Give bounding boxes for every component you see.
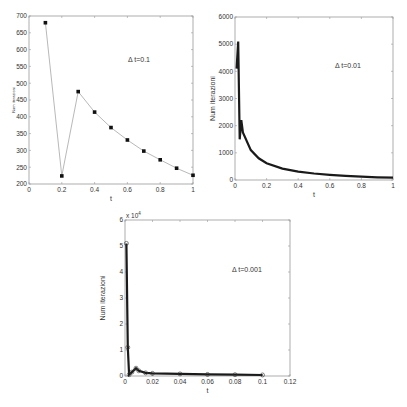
x-tick-label: 0.4 bbox=[90, 186, 99, 193]
y-tick-label: 3 bbox=[119, 294, 123, 301]
x-tick-label: 0.8 bbox=[156, 186, 165, 193]
x-tick-label: 0.04 bbox=[174, 378, 187, 385]
x-tick-label: 0.4 bbox=[294, 182, 303, 189]
x-tick-label: 0 bbox=[27, 186, 31, 193]
y-axis-label: Num iterazioni bbox=[209, 76, 216, 121]
data-point bbox=[76, 90, 80, 94]
delta-t-annotation: Δ t=0.1 bbox=[128, 56, 150, 63]
y-tick-label: 650 bbox=[16, 29, 27, 36]
x-tick-label: 0.06 bbox=[201, 378, 214, 385]
data-line bbox=[237, 42, 393, 178]
data-line bbox=[126, 243, 262, 375]
x-tick-label: 0.1 bbox=[258, 378, 267, 385]
y-tick-label: 4 bbox=[119, 268, 123, 275]
x-tick-label: 0.08 bbox=[229, 378, 242, 385]
data-point bbox=[142, 149, 146, 153]
data-point bbox=[44, 21, 48, 25]
y-tick-label: 250 bbox=[16, 164, 27, 171]
chart-1: 00.20.40.60.8120025030035040045050055060… bbox=[11, 12, 195, 202]
x-tick-label: 0.12 bbox=[284, 378, 297, 385]
x-tick-label: 0 bbox=[233, 182, 237, 189]
x-tick-label: 1 bbox=[191, 186, 195, 193]
y-axis-label: Num iterazioni bbox=[99, 275, 106, 320]
y-tick-label: 0 bbox=[229, 176, 233, 183]
figure: 00.20.40.60.8120025030035040045050055060… bbox=[0, 0, 407, 407]
y-tick-label: 5 bbox=[119, 242, 123, 249]
data-point bbox=[126, 138, 130, 142]
data-line bbox=[45, 23, 193, 176]
delta-t-annotation: Δ t=0.01 bbox=[335, 62, 361, 69]
y-tick-label: 600 bbox=[16, 46, 27, 53]
y-tick-label: 5000 bbox=[219, 40, 234, 47]
x-axis-label: t bbox=[207, 387, 209, 394]
axes-frame bbox=[235, 17, 393, 180]
y-tick-label: 400 bbox=[16, 113, 27, 120]
y-tick-label: 350 bbox=[16, 130, 27, 137]
y-tick-label: 550 bbox=[16, 63, 27, 70]
x-tick-label: 0.2 bbox=[262, 182, 271, 189]
y-tick-label: 3000 bbox=[219, 95, 234, 102]
y-tick-label: 2000 bbox=[219, 122, 234, 129]
y-tick-label: 4000 bbox=[219, 68, 234, 75]
data-point bbox=[109, 126, 113, 130]
y-scale-label: x 104 bbox=[126, 211, 141, 219]
y-tick-label: 700 bbox=[16, 12, 27, 19]
axes-frame bbox=[125, 220, 290, 376]
y-tick-label: 2 bbox=[119, 320, 123, 327]
y-tick-label: 450 bbox=[16, 96, 27, 103]
x-tick-label: 0.6 bbox=[325, 182, 334, 189]
x-tick-label: 0.8 bbox=[357, 182, 366, 189]
delta-t-annotation: Δ t=0.001 bbox=[232, 266, 262, 273]
chart-3: 00.020.040.060.080.10.120123456Δ t=0.001… bbox=[99, 211, 297, 394]
chart-2: 00.20.40.60.810100020003000400050006000Δ… bbox=[209, 13, 395, 198]
y-tick-label: 300 bbox=[16, 147, 27, 154]
y-tick-label: 1000 bbox=[219, 149, 234, 156]
data-point bbox=[93, 110, 97, 114]
x-tick-label: 0.02 bbox=[146, 378, 159, 385]
x-axis-label: t bbox=[313, 191, 315, 198]
x-tick-label: 0.2 bbox=[57, 186, 66, 193]
data-point bbox=[175, 166, 179, 170]
y-axis-label: Num iterazioni bbox=[11, 87, 16, 113]
y-tick-label: 500 bbox=[16, 80, 27, 87]
y-tick-label: 0 bbox=[119, 372, 123, 379]
x-tick-label: 0.6 bbox=[123, 186, 132, 193]
data-point bbox=[60, 174, 64, 178]
x-axis-label: t bbox=[110, 195, 112, 202]
y-tick-label: 6 bbox=[119, 216, 123, 223]
data-point bbox=[158, 158, 162, 162]
x-tick-label: 1 bbox=[391, 182, 395, 189]
y-tick-label: 6000 bbox=[219, 13, 234, 20]
x-tick-label: 0 bbox=[123, 378, 127, 385]
y-tick-label: 200 bbox=[16, 180, 27, 187]
data-point bbox=[191, 173, 195, 177]
y-tick-label: 1 bbox=[119, 346, 123, 353]
